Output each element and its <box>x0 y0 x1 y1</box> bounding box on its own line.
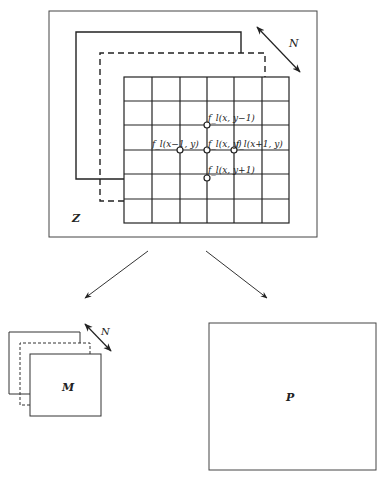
feature-map-diagram: f_l(x, y−1) f_l(x−1, y) f_l(x, y) f_l(x+… <box>0 0 389 483</box>
arrow-to-m-icon <box>85 251 148 298</box>
p-label: P <box>285 391 295 404</box>
depth-label: N <box>288 37 299 50</box>
m-depth-label: N <box>100 326 111 337</box>
m-label: M <box>61 381 75 394</box>
label-left: f_l(x−1, y) <box>151 139 199 150</box>
label-right: f_l(x+1, y) <box>235 139 283 150</box>
arrow-to-p-icon <box>206 251 267 298</box>
label-top: f_l(x, y−1) <box>207 113 255 124</box>
volume-label: Z <box>71 212 81 225</box>
label-bottom: f_l(x, y+1) <box>207 165 255 176</box>
node-bottom <box>204 175 210 181</box>
